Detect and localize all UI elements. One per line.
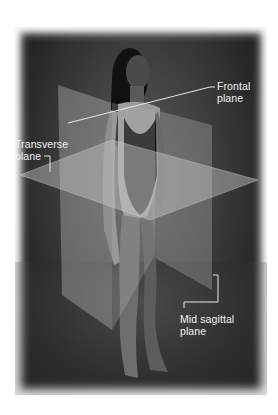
face bbox=[126, 55, 150, 89]
transverse-plane-label: Transverse plane bbox=[15, 138, 68, 162]
frontal-plane-label-line1: Frontal bbox=[217, 80, 250, 92]
frontal-plane-label: Frontal plane bbox=[217, 80, 250, 104]
mid-sagittal-plane-label: Mid sagittal plane bbox=[180, 313, 234, 337]
transverse-plane-label-line1: Transverse bbox=[15, 138, 68, 150]
mid-sagittal-plane-label-line1: Mid sagittal bbox=[180, 313, 234, 325]
transverse-plane-label-line2: plane bbox=[15, 150, 68, 162]
frontal-plane-label-line2: plane bbox=[217, 92, 250, 104]
mid-sagittal-plane-label-line2: plane bbox=[180, 325, 234, 337]
